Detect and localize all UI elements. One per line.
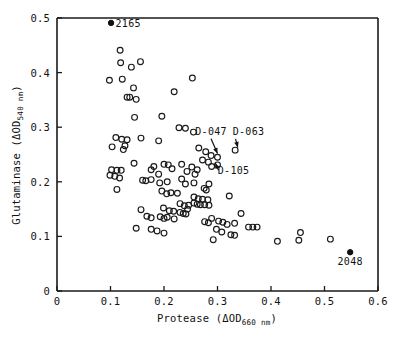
x-tick-label: 0.2 (154, 295, 174, 307)
y-tick-label: 0.4 (30, 67, 50, 79)
y-tick-label: 0 (43, 285, 50, 297)
protease-glutaminase-scatter: 00.10.20.30.40.50.6 00.10.20.30.40.5 216… (0, 0, 404, 338)
y-tick-label: 0.3 (30, 121, 50, 133)
x-tick-label: 0.1 (101, 295, 121, 307)
y-tick-label: 0.1 (30, 230, 50, 242)
scatter-plot-figure: 00.10.20.30.40.50.6 00.10.20.30.40.5 216… (0, 0, 404, 338)
annotation-label: D-047 (195, 126, 227, 137)
x-tick-label: 0.4 (261, 295, 281, 307)
y-axis-title-subscript: 540 nm (16, 92, 25, 121)
figure-background (0, 0, 404, 338)
x-tick-label: 0.3 (208, 295, 228, 307)
x-tick-label: 0.6 (368, 295, 388, 307)
data-point-label: 2165 (116, 18, 141, 29)
x-tick-label: 0 (54, 295, 61, 307)
x-tick-label: 0.5 (315, 295, 335, 307)
y-axis-title-close: ) (10, 85, 22, 92)
x-axis-title-close: ) (270, 312, 277, 324)
x-axis-title-name: Protease (ΔOD (157, 312, 242, 324)
data-point-filled (108, 20, 113, 25)
y-axis-title-name: Glutaminase (ΔOD (10, 120, 22, 224)
annotation-label: D-063 (233, 126, 265, 137)
data-point-filled (347, 250, 352, 255)
annotation-label: D-105 (218, 165, 250, 176)
x-axis-title-subscript: 660 nm (242, 318, 271, 327)
y-tick-label: 0.5 (30, 12, 50, 24)
data-point-label: 2048 (338, 256, 363, 267)
y-tick-label: 0.2 (30, 176, 50, 188)
